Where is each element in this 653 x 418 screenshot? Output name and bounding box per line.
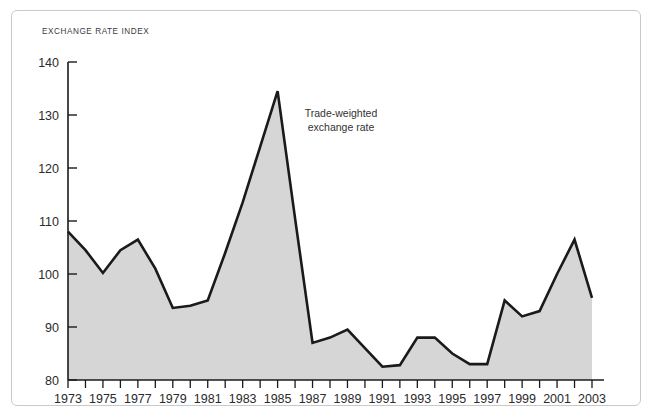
y-tick-label: 80 <box>45 374 59 388</box>
x-tick-label: 1989 <box>334 392 362 406</box>
x-tick-label: 1983 <box>229 392 257 406</box>
x-tick-label: 1979 <box>159 392 187 406</box>
x-tick-label: 1975 <box>89 392 117 406</box>
y-tick-label: 90 <box>45 321 59 335</box>
x-tick-label: 1973 <box>54 392 82 406</box>
y-tick-label: 130 <box>38 109 59 123</box>
series-annotation-line2: exchange rate <box>308 121 375 133</box>
y-tick-label: 120 <box>38 162 59 176</box>
series-annotation-line1: Trade-weighted <box>305 107 378 119</box>
x-tick-label: 1997 <box>473 392 501 406</box>
y-axis-tick-labels: 8090100110120130140 <box>38 56 59 388</box>
y-tick-label: 140 <box>38 56 59 70</box>
exchange-rate-area-chart: 8090100110120130140 19731975197719791981… <box>0 0 653 418</box>
x-tick-label: 1981 <box>194 392 222 406</box>
chart-figure: EXCHANGE RATE INDEX 8090100110120130140 … <box>0 0 653 418</box>
x-tick-label: 1977 <box>124 392 152 406</box>
y-tick-label: 100 <box>38 268 59 282</box>
x-tick-label: 1999 <box>508 392 536 406</box>
x-tick-label: 1995 <box>438 392 466 406</box>
x-axis-tick-labels: 1973197519771979198119831985198719891991… <box>54 392 606 406</box>
x-tick-label: 1991 <box>368 392 396 406</box>
x-tick-label: 2001 <box>543 392 571 406</box>
y-tick-label: 110 <box>39 215 59 229</box>
x-tick-label: 2003 <box>578 392 606 406</box>
x-tick-label: 1985 <box>264 392 292 406</box>
x-axis-ticks <box>68 380 592 388</box>
x-tick-label: 1987 <box>299 392 327 406</box>
x-tick-label: 1993 <box>403 392 431 406</box>
